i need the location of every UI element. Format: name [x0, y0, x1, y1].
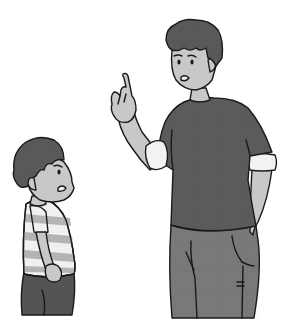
boy-head: [13, 137, 74, 202]
man-eye-right: [190, 59, 193, 64]
boy-hand: [45, 264, 61, 282]
boy-figure: [13, 137, 75, 315]
man-pants: [170, 225, 260, 318]
man-mouth: [181, 76, 189, 81]
man-figure: [111, 20, 276, 319]
man-eye-left: [177, 59, 180, 64]
illustration-scene: [0, 0, 292, 327]
man-hand: [111, 73, 136, 122]
boy-eye: [57, 169, 60, 174]
man-head: [166, 20, 223, 91]
boy-mouth: [58, 186, 66, 191]
